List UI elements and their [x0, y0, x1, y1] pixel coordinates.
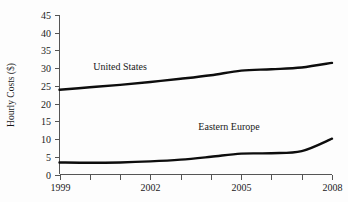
x-tick-label: 2005: [232, 182, 252, 193]
y-tick-label: 25: [41, 81, 51, 92]
y-tick-label: 0: [46, 170, 51, 181]
series-label: United States: [93, 61, 147, 72]
y-tick-label: 15: [41, 116, 51, 127]
x-tick-label: 2008: [323, 182, 343, 193]
series-label: Eastern Europe: [198, 121, 260, 132]
chart-container: 051015202530354045 1999200220052008 Hour…: [0, 0, 348, 202]
x-tick-label: 2002: [141, 182, 161, 193]
y-tick-label: 40: [41, 28, 51, 39]
y-tick-label: 5: [46, 152, 51, 163]
chart-background: [0, 0, 348, 202]
y-tick-label: 30: [41, 63, 51, 74]
line-chart: 051015202530354045 1999200220052008 Hour…: [0, 0, 348, 202]
y-tick-label: 35: [41, 45, 51, 56]
y-tick-label: 10: [41, 134, 51, 145]
y-tick-label: 20: [41, 99, 51, 110]
y-tick-label: 45: [41, 10, 51, 21]
y-axis-title: Hourly Costs ($): [6, 63, 17, 127]
x-tick-label: 1999: [51, 182, 71, 193]
